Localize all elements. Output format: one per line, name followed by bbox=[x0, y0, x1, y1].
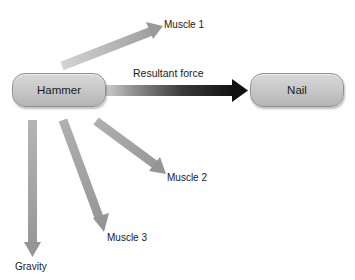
force-diagram: Hammer Nail Resultant force Muscle 1 Mus… bbox=[0, 0, 355, 280]
arrows-layer bbox=[0, 0, 355, 280]
muscle1-arrow bbox=[62, 22, 163, 66]
muscle3-label: Muscle 3 bbox=[107, 232, 147, 243]
muscle3-arrow bbox=[63, 120, 109, 232]
muscle2-arrow bbox=[96, 121, 166, 174]
resultant-force-arrow bbox=[104, 79, 248, 102]
gravity-label: Gravity bbox=[15, 261, 47, 272]
resultant-force-label: Resultant force bbox=[133, 67, 204, 79]
nail-node: Nail bbox=[250, 73, 344, 107]
muscle2-label: Muscle 2 bbox=[167, 172, 207, 183]
nail-label: Nail bbox=[287, 84, 307, 96]
hammer-label: Hammer bbox=[37, 84, 81, 96]
gravity-arrow bbox=[24, 120, 41, 257]
hammer-node: Hammer bbox=[12, 73, 106, 107]
muscle1-label: Muscle 1 bbox=[164, 19, 204, 30]
